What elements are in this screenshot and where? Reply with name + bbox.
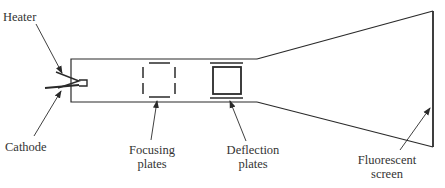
focusing-arrow [151, 101, 157, 140]
heater-arrow [36, 24, 62, 73]
cathode-arrow [34, 91, 61, 136]
tube-cone [257, 11, 433, 147]
heater-cathode-element [45, 72, 87, 88]
heater-label: Heater [3, 10, 36, 24]
deflection-plates-label: Deflection plates [218, 143, 288, 171]
tube-neck [71, 59, 257, 102]
screen-arrow [400, 108, 430, 150]
fluorescent-screen-label: Fluorescent screen [347, 153, 427, 181]
deflection-arrow [230, 101, 246, 141]
crt-diagram: Heater Cathode Focusing plates Deflectio… [0, 0, 445, 188]
focusing-plates-label: Focusing plates [120, 143, 184, 171]
deflection-plates [210, 63, 243, 98]
focusing-plates [143, 63, 175, 97]
cathode-label: Cathode [5, 140, 47, 154]
